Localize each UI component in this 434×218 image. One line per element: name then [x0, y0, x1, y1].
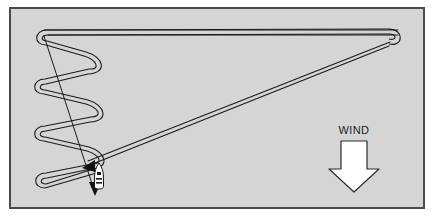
sailing-course-figure: WIND — [0, 0, 434, 218]
wind-label: WIND — [322, 124, 386, 136]
diagram-frame — [9, 7, 425, 209]
